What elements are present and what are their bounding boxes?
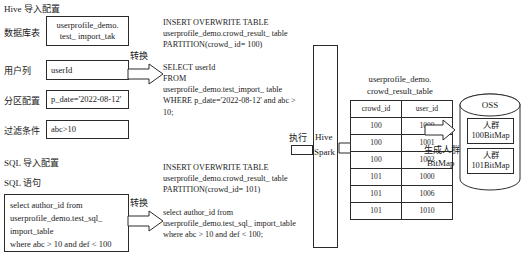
filter-condition-text: abc>10 <box>51 124 76 135</box>
generate-bitmap-arrow <box>424 118 456 142</box>
column-header-crowd-id: crowd_id <box>351 101 402 118</box>
result-table-caption-line1: userprofile_demo. <box>350 74 450 85</box>
field-label-partition-config: 分区配置 <box>4 96 40 107</box>
field-label-filter-condition: 过滤条件 <box>4 126 40 137</box>
oss-title: OSS <box>459 100 521 110</box>
field-label-user-column: 用户列 <box>4 66 31 77</box>
field-value-user-column[interactable]: userId <box>46 60 129 80</box>
cell-crowd-id: 101 <box>351 169 402 186</box>
execute-label: 执行 <box>289 133 307 143</box>
field-value-partition-config[interactable]: p_date='2022-08-12' <box>46 90 129 109</box>
cell-crowd-id: 101 <box>351 186 402 203</box>
field-label-database-table: 数据库表 <box>4 28 40 39</box>
convert-arrow-top <box>127 62 165 86</box>
oss-item-100-line2: 100BitMap <box>468 131 513 141</box>
bitmap-label-line1: 生成人群 <box>424 145 460 155</box>
convert-label-top: 转换 <box>130 51 148 61</box>
oss-item-bitmap-101[interactable]: 人群 101BitMap <box>467 148 514 174</box>
table-row: 101 1000 <box>351 169 453 186</box>
cell-user-id: 1010 <box>402 203 453 220</box>
table-row: 101 1006 <box>351 186 453 203</box>
cell-crowd-id: 100 <box>351 118 402 135</box>
cell-crowd-id: 100 <box>351 152 402 169</box>
cell-crowd-id: 100 <box>351 135 402 152</box>
bitmap-label-line2: BitMap <box>427 158 455 168</box>
table-row: 101 1010 <box>351 203 453 220</box>
user-column-text: userId <box>51 65 72 76</box>
engine-label-hive: Hive <box>315 131 333 144</box>
convert-arrow-bottom <box>127 209 165 233</box>
oss-item-100-line1: 人群 <box>468 121 513 131</box>
result-table-caption-line2: crowd_result_table <box>350 86 450 97</box>
column-header-user-id: user_id <box>402 101 453 118</box>
sql-statement-input[interactable]: select author_id from userprofile_demo.t… <box>4 194 129 252</box>
execute-arrow-stub <box>291 145 313 155</box>
field-value-database-table[interactable]: userprofile_demo. test_ import_tak <box>46 16 129 46</box>
oss-item-101-line2: 101BitMap <box>468 161 513 171</box>
generated-sql-top: INSERT OVERWRITE TABLE userprofile_demo.… <box>163 17 308 118</box>
generated-sql-bottom: INSERT OVERWRITE TABLE userprofile_demo.… <box>163 162 313 240</box>
partition-config-text: p_date='2022-08-12' <box>51 94 121 105</box>
database-table-text: userprofile_demo. test_ import_tak <box>51 20 124 42</box>
engine-label-spark: Spark <box>314 146 335 159</box>
sql-statement-label: SQL 语句 <box>4 178 41 189</box>
table-header-row: crowd_id user_id <box>351 101 453 118</box>
oss-item-101-line1: 人群 <box>468 151 513 161</box>
oss-item-bitmap-100[interactable]: 人群 100BitMap <box>467 118 514 144</box>
hive-import-config-title: Hive 导入配置 <box>4 4 60 15</box>
sql-statement-text: select author_id from userprofile_demo.t… <box>10 200 111 249</box>
cell-user-id: 1006 <box>402 186 453 203</box>
cell-user-id: 1000 <box>402 169 453 186</box>
cell-crowd-id: 101 <box>351 203 402 220</box>
convert-label-bottom: 转换 <box>130 198 148 208</box>
field-value-filter-condition[interactable]: abc>10 <box>46 120 129 139</box>
sql-import-config-title: SQL 导入配置 <box>4 158 59 169</box>
